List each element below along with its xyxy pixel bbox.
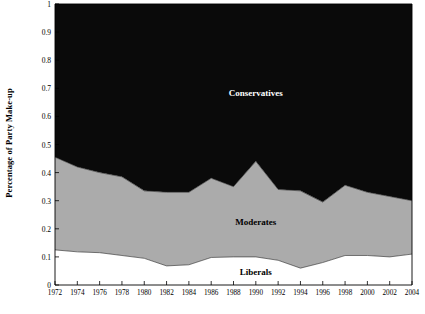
x-tick-label: 1992 (271, 289, 285, 297)
y-tick-label: 0.8 (42, 56, 51, 65)
y-tick-label: 0.1 (42, 252, 51, 261)
plot-area (0, 0, 425, 314)
x-tick-label: 1974 (70, 289, 84, 297)
y-tick-label: 0.4 (42, 168, 51, 177)
x-tick-label: 1996 (316, 289, 330, 297)
y-tick-label: 0.7 (42, 84, 51, 93)
y-tick-label: 1 (47, 0, 51, 9)
y-axis-tick-labels: 00.10.20.30.40.50.60.70.80.91 (18, 0, 51, 290)
y-axis-title: Percentage of Party Make-up (4, 88, 14, 197)
x-tick-label: 1982 (159, 289, 173, 297)
x-tick-label: 1994 (293, 289, 307, 297)
y-tick-label: 0.5 (42, 140, 51, 149)
x-tick-label: 1988 (226, 289, 240, 297)
y-tick-label: 0.9 (42, 28, 51, 37)
y-axis-title-wrap: Percentage of Party Make-up (0, 0, 18, 285)
y-tick-label: 0.6 (42, 112, 51, 121)
x-tick-label: 1972 (48, 289, 62, 297)
x-tick-label: 1984 (182, 289, 196, 297)
x-tick-label: 1986 (204, 289, 218, 297)
x-tick-label: 2004 (405, 289, 419, 297)
stacked-area-chart: Percentage of Party Make-up 00.10.20.30.… (0, 0, 425, 314)
x-tick-label: 2000 (360, 289, 374, 297)
x-tick-label: 1976 (92, 289, 106, 297)
x-tick-label: 1980 (137, 289, 151, 297)
x-tick-label: 1990 (249, 289, 263, 297)
x-tick-label: 2002 (383, 289, 397, 297)
area-conservatives (55, 4, 412, 202)
series-areas (55, 4, 412, 285)
x-tick-label: 1978 (115, 289, 129, 297)
x-tick-label: 1998 (338, 289, 352, 297)
y-tick-label: 0.2 (42, 224, 51, 233)
y-tick-label: 0.3 (42, 196, 51, 205)
